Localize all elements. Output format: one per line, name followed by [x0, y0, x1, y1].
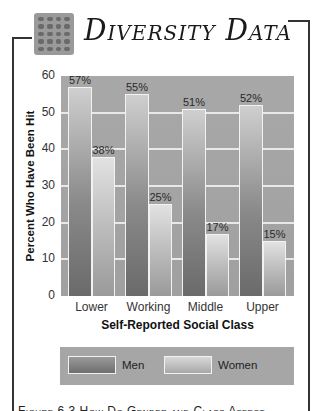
- bar-women-upper: [263, 241, 286, 296]
- bar-women-middle: [206, 234, 229, 296]
- bar-men-upper: [239, 105, 263, 296]
- page-title: Diversity Data: [84, 13, 292, 48]
- x-axis-label: Self-Reported Social Class: [61, 318, 294, 332]
- bar-women-lower: [92, 157, 115, 296]
- plot-area: 57%38%55%25%51%17%52%15%: [61, 76, 294, 296]
- x-tick-label: Middle: [176, 300, 236, 314]
- data-label: 51%: [174, 96, 214, 108]
- bar-women-working: [149, 204, 172, 296]
- bar-men-lower: [68, 87, 92, 296]
- data-label: 17%: [198, 221, 238, 233]
- x-tick-label: Lower: [62, 300, 122, 314]
- y-tick-label: 40: [33, 141, 55, 155]
- legend: Men Women: [60, 347, 294, 385]
- brick-pattern-icon: [34, 13, 74, 55]
- y-tick-label: 20: [33, 215, 55, 229]
- y-tick-label: 0: [33, 288, 55, 302]
- y-tick-label: 50: [33, 105, 55, 119]
- data-label: 57%: [60, 74, 100, 86]
- legend-swatch-men: [68, 356, 116, 374]
- x-tick-label: Working: [119, 300, 179, 314]
- data-label: 52%: [231, 92, 271, 104]
- legend-swatch-women: [164, 356, 212, 374]
- data-label: 55%: [117, 81, 157, 93]
- bar-men-middle: [182, 109, 206, 296]
- y-tick-label: 30: [33, 178, 55, 192]
- figure-caption: Figure 6.3 How Do Gender and Class Affec…: [18, 404, 265, 411]
- data-label: 38%: [84, 144, 124, 156]
- frame-right-border: [308, 20, 310, 411]
- y-tick-label: 60: [33, 68, 55, 82]
- data-label: 25%: [141, 191, 181, 203]
- frame-left-border: [12, 37, 14, 411]
- y-tick-label: 10: [33, 251, 55, 265]
- legend-label-men: Men: [122, 359, 144, 371]
- data-label: 15%: [255, 228, 295, 240]
- frame-top-left-border: [12, 37, 32, 39]
- legend-label-women: Women: [218, 359, 257, 371]
- x-tick-label: Upper: [233, 300, 293, 314]
